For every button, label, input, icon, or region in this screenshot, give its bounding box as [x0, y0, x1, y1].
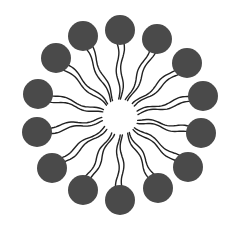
head-group [105, 185, 135, 215]
tail-chain [138, 120, 189, 127]
tail-chain [120, 43, 124, 99]
head-group [188, 81, 218, 111]
tail-chain [138, 101, 191, 114]
head-group [142, 24, 172, 54]
tail-chain [50, 117, 102, 128]
tail-chain [85, 133, 112, 177]
head-group [173, 152, 203, 182]
head-group [22, 117, 52, 147]
tail-chain [116, 43, 120, 99]
head-group [105, 15, 135, 45]
head-group [68, 21, 98, 51]
head-group [143, 173, 173, 203]
head-group [172, 48, 202, 78]
head-group [186, 118, 216, 148]
tail-chain [128, 133, 149, 178]
head-group [23, 79, 53, 109]
tail-chain [90, 134, 114, 179]
tail-chain [68, 65, 108, 104]
tail-chain [125, 50, 150, 100]
tail-chain [128, 53, 156, 101]
tail-chain [64, 129, 107, 162]
tail-chain [129, 132, 155, 175]
head-group [68, 175, 98, 205]
tail-chain [116, 135, 121, 187]
micelle-core [104, 101, 136, 133]
tail-chain [120, 135, 124, 187]
micelle-diagram [0, 0, 227, 240]
head-group [41, 43, 71, 73]
head-group [37, 153, 67, 183]
